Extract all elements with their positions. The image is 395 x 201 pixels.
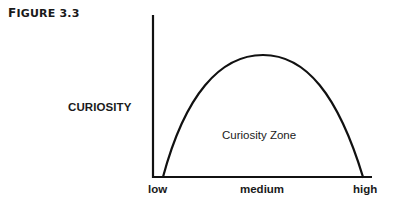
curiosity-zone-label: Curiosity Zone [222,129,296,141]
x-tick-high: high [353,183,377,195]
x-tick-low: low [148,183,167,195]
x-tick-medium: medium [240,183,284,195]
curiosity-curve [163,55,363,177]
curiosity-curve-chart [0,0,395,201]
